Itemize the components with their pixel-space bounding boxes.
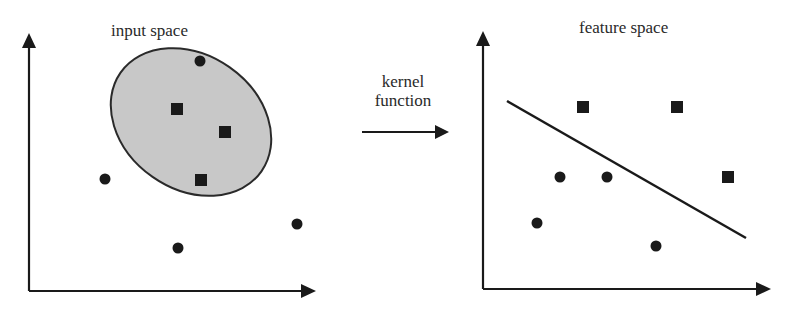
input-circle-point (292, 219, 303, 230)
feature-circle-point (602, 172, 613, 183)
feature-x-axis-arrow-icon (756, 282, 771, 296)
input-square-point (171, 103, 183, 115)
feature-square-point (671, 101, 683, 113)
input-space-title: input space (111, 21, 188, 40)
input-y-axis-arrow-icon (22, 33, 36, 48)
kernel-label-line2: function (368, 91, 438, 110)
feature-space-points (532, 101, 735, 252)
input-circle-point (173, 243, 184, 254)
separator-line (507, 101, 746, 238)
feature-square-point (577, 101, 589, 113)
feature-square-point (722, 171, 734, 183)
kernel-label-line1: kernel (368, 72, 438, 91)
input-circle-point (100, 174, 111, 185)
input-circle-point (195, 56, 206, 67)
feature-circle-point (532, 218, 543, 229)
cluster-ellipse (82, 18, 300, 226)
feature-circle-point (555, 172, 566, 183)
feature-space-title: feature space (579, 18, 668, 37)
kernel-arrow (362, 125, 449, 139)
feature-y-axis-arrow-icon (476, 31, 490, 46)
kernel-trick-diagram: input space feature space kernel functio… (0, 0, 789, 311)
input-x-axis-arrow-icon (301, 284, 316, 298)
kernel-function-label: kernel function (368, 72, 438, 110)
arrow-right-icon (435, 125, 449, 139)
linear-separator (507, 101, 746, 238)
feature-circle-point (651, 241, 662, 252)
input-square-point (219, 126, 231, 138)
diagram-canvas (0, 0, 789, 311)
input-square-point (195, 174, 207, 186)
input-space-cluster-ellipse (82, 18, 300, 226)
feature-space-axes (476, 31, 771, 296)
